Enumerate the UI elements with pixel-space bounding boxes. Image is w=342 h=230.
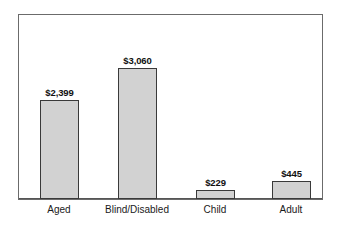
bar-aged[interactable] bbox=[40, 100, 79, 199]
category-label-child: Child bbox=[204, 203, 227, 216]
bar-value-label-aged: $2,399 bbox=[45, 87, 73, 98]
x-axis-category-labels: Aged Blind/Disabled Child Adult bbox=[18, 203, 323, 223]
bar-adult[interactable] bbox=[272, 181, 311, 199]
chart-plot-area: $2,399 $3,060 $229 $445 bbox=[18, 14, 323, 200]
category-label-blind-disabled: Blind/Disabled bbox=[105, 203, 169, 216]
bar-child[interactable] bbox=[196, 190, 235, 199]
bar-value-label-adult: $445 bbox=[281, 168, 302, 179]
bar-value-label-child: $229 bbox=[205, 177, 226, 188]
category-label-aged: Aged bbox=[47, 203, 70, 216]
category-label-adult: Adult bbox=[280, 203, 303, 216]
bar-chart: $2,399 $3,060 $229 $445 Aged Blind/Disab… bbox=[0, 0, 342, 230]
bar-blind-disabled[interactable] bbox=[118, 68, 157, 199]
bar-value-label-blind-disabled: $3,060 bbox=[123, 55, 151, 66]
